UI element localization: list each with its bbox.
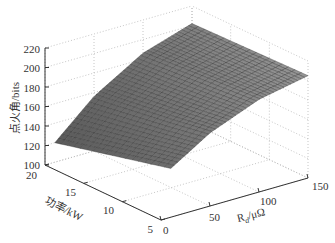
z-tick-180: 180: [24, 82, 41, 94]
x-axis-label: Rd/μΩ: [236, 205, 267, 226]
y-tick-5: 5: [148, 223, 154, 235]
z-tick-200: 200: [24, 62, 41, 74]
z-tick-220: 220: [24, 43, 41, 55]
z-tick-140: 140: [24, 121, 41, 133]
surface-mesh: [55, 24, 308, 169]
surface-plot: 220 200 180 160 140 120 100 20 15 10 5 0…: [0, 0, 335, 243]
x-tick-0: 0: [163, 224, 169, 236]
z-tick-120: 120: [24, 140, 41, 152]
y-tick-20: 20: [26, 169, 38, 181]
x-tick-150: 150: [312, 180, 329, 192]
x-tick-50: 50: [209, 211, 221, 223]
z-tick-160: 160: [24, 101, 41, 113]
z-axis-label: 点火角/bits: [9, 82, 21, 134]
y-tick-10: 10: [103, 204, 115, 216]
y-tick-15: 15: [65, 186, 77, 198]
x-axis-label-unit: /μΩ: [247, 205, 267, 221]
